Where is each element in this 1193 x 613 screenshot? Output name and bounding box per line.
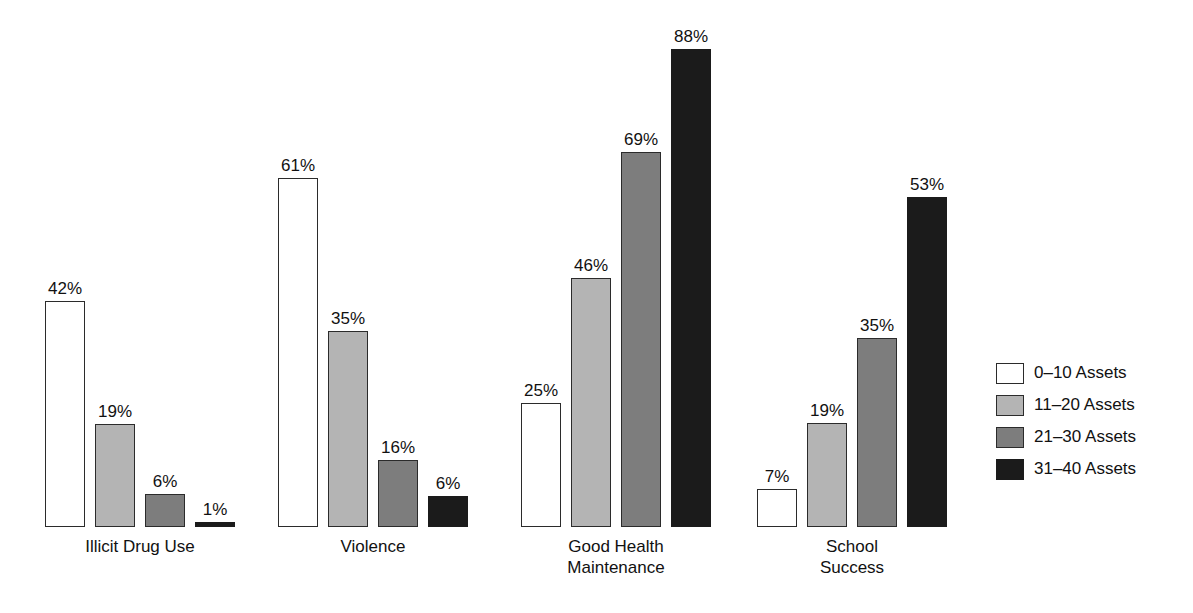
bar-value-label: 61% [281,156,315,175]
legend-item-label: 31–40 Assets [1034,459,1136,479]
bar-value-label: 46% [574,256,608,275]
bar-value-label: 6% [436,474,461,493]
legend-item[interactable]: 11–20 Assets [996,389,1186,421]
group-label: Good Health Maintenance [501,536,731,578]
bar-value-label: 6% [153,472,178,491]
bar-value-label: 42% [48,279,82,298]
bar[interactable]: 16% [378,460,418,527]
bar-group-violence: 61% 35% 16% 6% [258,0,488,613]
bar-group-bars: 7% 19% 35% 53% [737,0,967,527]
bar[interactable]: 46% [571,278,611,527]
legend-item[interactable]: 31–40 Assets [996,453,1186,485]
bar[interactable]: 61% [278,178,318,527]
group-label: Illicit Drug Use [25,536,255,557]
bar-group-bars: 42% 19% 6% 1% [25,0,255,527]
legend-item[interactable]: 21–30 Assets [996,421,1186,453]
bar-value-label: 35% [860,316,894,335]
legend-swatch-icon [996,363,1024,384]
bar[interactable]: 53% [907,197,947,527]
bar[interactable]: 7% [757,489,797,527]
bar[interactable]: 35% [328,331,368,527]
legend: 0–10 Assets 11–20 Assets 21–30 Assets 31… [996,357,1186,485]
bar-value-label: 88% [674,27,708,46]
bar-value-label: 7% [765,467,790,486]
group-label: School Success [737,536,967,578]
bar-value-label: 35% [331,309,365,328]
legend-item-label: 0–10 Assets [1034,363,1127,383]
bar[interactable]: 6% [428,496,468,527]
bar-value-label: 19% [810,401,844,420]
bar-group-good-health-maintenance: 25% 46% 69% 88% [501,0,731,613]
bar[interactable]: 25% [521,403,561,527]
bar-value-label: 53% [910,175,944,194]
bar-value-label: 19% [98,402,132,421]
bar[interactable]: 19% [95,424,135,527]
bar-group-bars: 61% 35% 16% 6% [258,0,488,527]
legend-item-label: 11–20 Assets [1034,395,1135,415]
bar[interactable]: 35% [857,338,897,527]
bar[interactable]: 69% [621,152,661,527]
group-label: Violence [258,536,488,557]
bar-group-illicit-drug-use: 42% 19% 6% 1% [25,0,255,613]
bar-group-school-success: 7% 19% 35% 53% [737,0,967,613]
bar-value-label: 16% [381,438,415,457]
bar[interactable]: 88% [671,49,711,527]
legend-swatch-icon [996,427,1024,448]
legend-swatch-icon [996,395,1024,416]
legend-item[interactable]: 0–10 Assets [996,357,1186,389]
bar-value-label: 69% [624,130,658,149]
bar[interactable]: 19% [807,423,847,527]
legend-item-label: 21–30 Assets [1034,427,1136,447]
plot-area: 42% 19% 6% 1% [0,0,960,613]
bar[interactable]: 42% [45,301,85,527]
legend-swatch-icon [996,459,1024,480]
bar-value-label: 25% [524,381,558,400]
bar-group-bars: 25% 46% 69% 88% [501,0,731,527]
bar[interactable]: 1% [195,522,235,527]
bar-chart: 42% 19% 6% 1% [0,0,1193,613]
bar-value-label: 1% [203,500,228,519]
bar[interactable]: 6% [145,494,185,527]
